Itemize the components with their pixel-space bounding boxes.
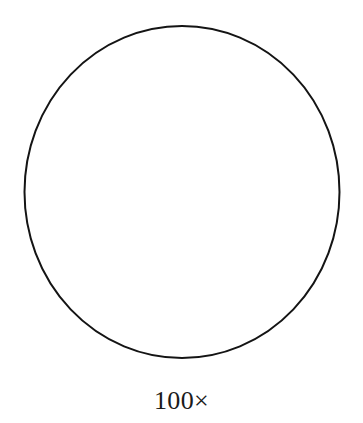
magnification-caption: 100× [0, 386, 363, 416]
figure-canvas [0, 0, 363, 423]
figure-container: 100× [0, 0, 363, 423]
canvas-background [0, 0, 363, 423]
circle-outline-graphic [0, 0, 363, 423]
